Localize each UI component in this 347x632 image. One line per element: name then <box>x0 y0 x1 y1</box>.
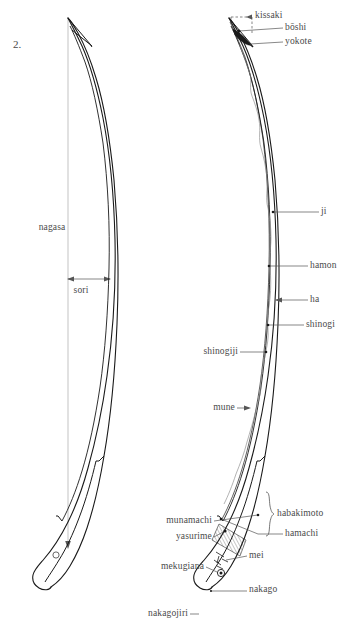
figure-number: 2. <box>13 38 21 50</box>
anchor-shinogiji <box>265 351 268 354</box>
label-sori: sori <box>74 286 89 296</box>
leader-yokote <box>250 42 283 44</box>
label-boshi: bōshi <box>285 23 306 33</box>
anchor-boshi <box>238 30 241 33</box>
sori-arrowhead-right <box>104 276 111 281</box>
label-munamachi: munamachi <box>166 516 212 526</box>
label-nakagojiri: nakagojiri <box>148 609 188 619</box>
label-yasurime: yasurime <box>176 532 212 542</box>
right-blade-yasurime-band <box>212 524 246 556</box>
label-mune: mune <box>213 403 235 413</box>
label-habakimoto: habakimoto <box>277 509 323 519</box>
label-kissaki: kissaki <box>255 11 282 21</box>
label-ji: ji <box>321 207 327 217</box>
leader-boshi <box>239 28 283 31</box>
left-blade-hamachi-notch <box>56 516 62 521</box>
label-yokote: yokote <box>285 37 312 47</box>
leader-mune-arrow <box>244 406 251 411</box>
label-nakago: nakago <box>249 585 277 595</box>
habakimoto-bracket <box>266 492 274 536</box>
left-blade-group <box>33 18 118 590</box>
sword-anatomy-figure: 2. nagasa sori kissaki bōshi yokote ji h… <box>0 0 347 632</box>
right-blade-hamon-line <box>224 46 271 504</box>
anchor-shinogi <box>267 324 270 327</box>
anchor-hamon <box>268 265 271 268</box>
left-blade-nakago-outline <box>45 461 96 582</box>
anchor-yasurime <box>223 529 226 532</box>
label-mei: mei <box>249 551 264 561</box>
right-blade-mekugiana-center <box>220 572 223 575</box>
right-blade-nakago-outline <box>206 461 257 582</box>
label-hamon: hamon <box>310 261 337 271</box>
label-shinogiji: shinogiji <box>203 347 238 357</box>
left-blade-mekugiana-hole <box>53 552 59 558</box>
label-mekugiana: mekugiana <box>161 562 204 572</box>
label-shinogi: shinogi <box>306 320 335 330</box>
label-hamachi: hamachi <box>285 529 318 539</box>
label-ha: ha <box>310 295 319 305</box>
label-nagasa: nagasa <box>39 223 66 233</box>
right-blade-nakago-point <box>210 590 212 592</box>
anchor-ji <box>272 211 275 214</box>
anchor-munamachi <box>257 514 260 517</box>
leader-kissaki-arrow <box>246 15 252 20</box>
anchor-hamachi <box>220 518 223 521</box>
